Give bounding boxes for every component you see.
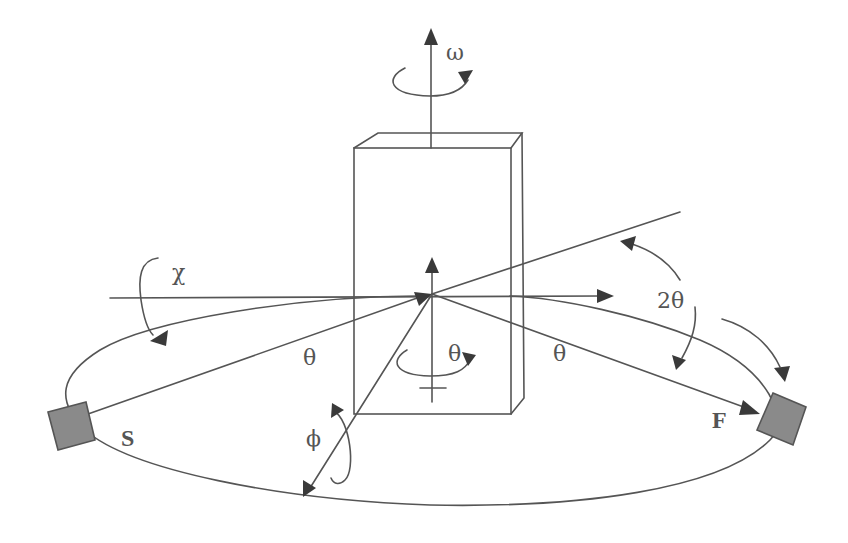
- detector-block: [757, 393, 806, 445]
- chi-axis: [110, 258, 614, 335]
- crystal-prism: [354, 133, 524, 414]
- chi-arrowhead: [150, 330, 168, 346]
- theta-right-label: θ: [553, 341, 566, 366]
- theta-left-label: θ: [303, 345, 316, 370]
- detector-label: F: [712, 407, 727, 433]
- chi-label: χ: [172, 260, 185, 285]
- diffractometer-circle: [66, 296, 778, 505]
- two-theta-label: 2θ: [657, 288, 684, 313]
- omega-label: ω: [446, 40, 464, 65]
- source-label: S: [121, 425, 134, 451]
- phi-axis: [303, 294, 432, 497]
- detector-movement-arrow: [722, 319, 790, 382]
- diffracted-beam: [432, 294, 752, 410]
- incident-beam: [88, 297, 420, 414]
- reference-line: [432, 212, 680, 294]
- source-block: [48, 402, 95, 450]
- diffractometer-diagram: ω χ ϕ θ θ θ 2θ: [0, 0, 848, 543]
- phi-label: ϕ: [306, 426, 321, 451]
- theta-center-label: θ: [448, 341, 461, 366]
